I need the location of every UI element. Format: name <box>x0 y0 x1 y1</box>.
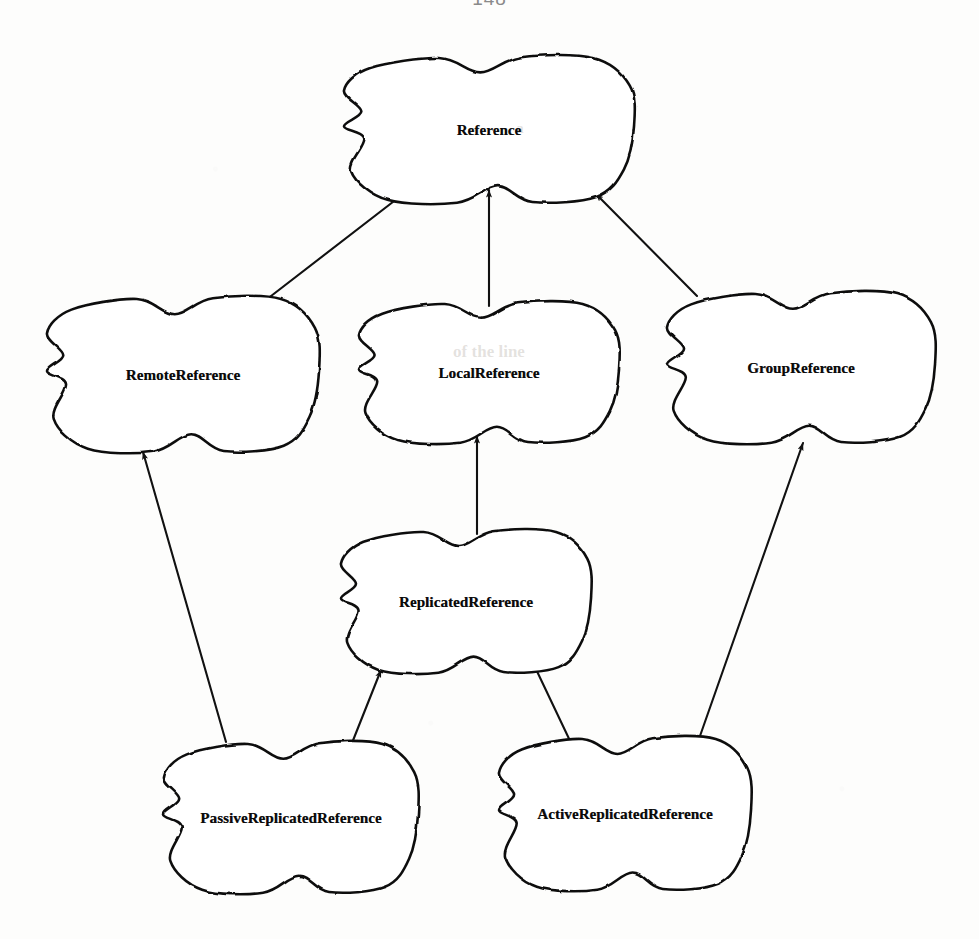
scanned-page: 148 <box>0 0 979 939</box>
node-label-active-replicated-reference[interactable]: ActiveReplicatedReference <box>537 806 712 823</box>
edge-active-to-group <box>700 443 803 736</box>
node-label-group-reference[interactable]: GroupReference <box>747 360 854 377</box>
node-label-remote-reference[interactable]: RemoteReference <box>126 367 240 384</box>
edge-group-to-reference <box>596 194 697 296</box>
reference-class-hierarchy-diagram <box>0 0 979 939</box>
edge-active-to-replicated <box>534 665 572 745</box>
node-label-replicated-reference[interactable]: ReplicatedReference <box>399 594 533 611</box>
node-label-passive-replicated-reference[interactable]: PassiveReplicatedReference <box>200 810 381 827</box>
edge-layer <box>143 188 803 748</box>
node-shape-layer <box>47 55 936 894</box>
node-label-reference[interactable]: Reference <box>457 122 522 139</box>
edge-remote-to-reference <box>262 188 411 303</box>
edge-passive-to-replicated <box>350 670 381 748</box>
node-label-local-reference[interactable]: LocalReference <box>438 365 539 382</box>
edge-passive-to-remote <box>143 452 226 742</box>
